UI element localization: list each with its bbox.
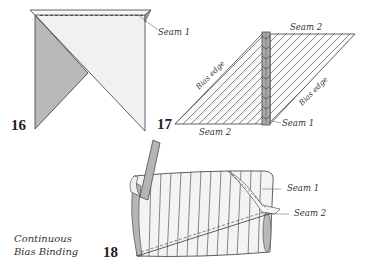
seam-2-label: Seam 2: [294, 208, 326, 218]
caption-line-1: Continuous: [14, 233, 72, 244]
tube-end: [263, 212, 271, 252]
figure-number-18: 18: [103, 244, 118, 260]
seam-1-label: Seam 1: [158, 27, 190, 37]
fabric-tube: [134, 171, 273, 257]
figure-16: Seam 1 16: [11, 10, 190, 133]
caption-line-2: Bias Binding: [13, 246, 78, 257]
top-band: [30, 10, 151, 15]
figure-number-16: 16: [11, 117, 27, 133]
seam-2-top-label: Seam 2: [290, 22, 322, 32]
left-fabric-half: [175, 33, 263, 124]
seam-2-bottom-label: Seam 2: [199, 127, 231, 137]
figure-number-17: 17: [157, 116, 173, 132]
figure-18: Seam 1 Seam 2 18: [103, 140, 326, 260]
figure-17: Seam 2 Seam 2 Seam 1 Bias edge Bias edge…: [157, 22, 366, 137]
seam-1-label: Seam 1: [282, 118, 314, 128]
bias-binding-diagram: Seam 1 16: [0, 0, 369, 269]
seam-1-label: Seam 1: [287, 183, 319, 193]
